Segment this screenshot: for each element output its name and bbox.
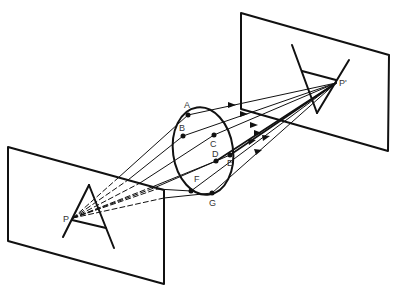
point-e: [228, 153, 233, 158]
lens: [167, 103, 239, 198]
lens-imaging-diagram: A B C D E F G P P': [0, 0, 394, 292]
label-f: F: [194, 174, 200, 184]
label-g: G: [209, 198, 216, 208]
point-c: [212, 133, 217, 138]
arrowhead: [240, 111, 248, 117]
point-g: [210, 191, 215, 196]
arrowhead: [262, 135, 270, 141]
label-c: C: [210, 139, 217, 149]
point-d: [214, 159, 219, 164]
label-p: P: [63, 214, 69, 224]
label-b: B: [179, 123, 185, 133]
point-b: [181, 134, 186, 139]
label-p-prime: P': [339, 78, 347, 88]
label-d: D: [212, 149, 219, 159]
arrowhead: [250, 122, 258, 128]
arrowhead: [228, 102, 236, 108]
label-e: E: [227, 158, 233, 168]
label-a: A: [184, 100, 190, 110]
point-a: [186, 113, 191, 118]
point-f: [189, 189, 194, 194]
